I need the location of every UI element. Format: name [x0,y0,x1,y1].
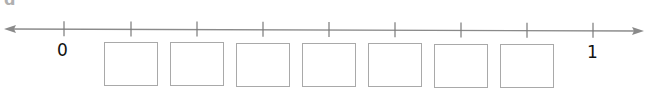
answer-box[interactable] [170,42,224,86]
answer-box[interactable] [302,43,356,87]
tick-label-one: 1 [587,42,598,62]
answer-box[interactable] [236,43,290,87]
answer-box[interactable] [500,44,554,88]
answer-box[interactable] [104,42,158,86]
answer-box[interactable] [434,44,488,88]
answer-box[interactable] [368,43,422,87]
tick-label-zero: 0 [57,40,68,60]
